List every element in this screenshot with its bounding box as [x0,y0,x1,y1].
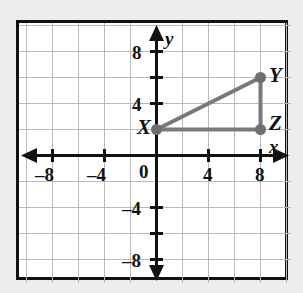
y-axis-top-arrow [149,25,164,41]
y-tick-label-minus8: –8 [122,251,141,270]
y-tick-label-4: 4 [132,95,142,114]
x-axis-left-arrow [21,148,37,163]
x-tick-label-minus4: –4 [87,165,106,184]
vertex-label-y: Y [269,65,282,86]
y-axis-name: y [165,29,173,48]
vertex-label-x: X [137,117,151,138]
vertex-point-z [255,124,266,135]
vertex-label-z: Z [269,113,282,134]
y-tick-label-minus4: –4 [122,199,141,218]
graph-frame: –8 –4 0 4 8 8 4 –4 –8 y x X Y Z [16,20,288,280]
x-tick-label-8: 8 [255,165,265,184]
y-axis [149,25,164,281]
x-tick-label-zero: 0 [139,162,149,181]
vertex-point-y [255,72,266,83]
y-axis-bottom-arrow [149,265,164,281]
y-tick-label-8: 8 [132,43,142,62]
x-tick-label-4: 4 [203,165,213,184]
x-axis-name: x [269,137,279,156]
graph-canvas [19,23,291,283]
vertex-point-x [151,124,162,135]
x-tick-label-minus8: –8 [35,165,54,184]
graph-plot-area: –8 –4 0 4 8 8 4 –4 –8 y x X Y Z [19,23,285,277]
coordinate-plane-figure: –8 –4 0 4 8 8 4 –4 –8 y x X Y Z [0,0,303,293]
